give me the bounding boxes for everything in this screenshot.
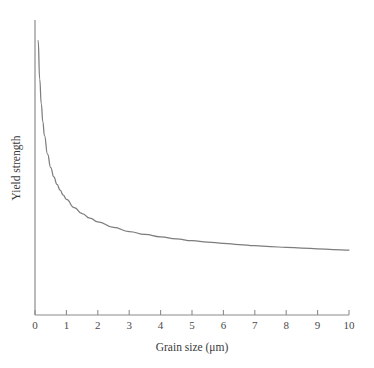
plot-axes	[35, 20, 349, 315]
x-axis-tick-labels: 012345678910	[32, 319, 355, 331]
x-axis-tick-label: 6	[221, 319, 227, 331]
x-axis-tick-label: 4	[158, 319, 164, 331]
x-axis-tick-label: 9	[315, 319, 321, 331]
y-axis-title: Yield strength	[10, 135, 23, 200]
x-axis-tick-label: 0	[32, 319, 38, 331]
x-axis-title: Grain size (μm)	[156, 341, 229, 354]
x-axis-tick-label: 10	[344, 319, 356, 331]
data-series-group	[38, 41, 349, 250]
yield-strength-vs-grain-size-chart: 012345678910 Grain size (μm) Yield stren…	[0, 0, 374, 368]
x-axis-tick-label: 2	[95, 319, 101, 331]
x-axis-tick-label: 7	[252, 319, 258, 331]
x-axis-tick-label: 3	[126, 319, 132, 331]
x-axis-tick-marks	[35, 310, 349, 315]
yield-strength-curve	[38, 41, 349, 250]
x-axis-tick-label: 8	[283, 319, 289, 331]
x-axis-tick-label: 5	[189, 319, 195, 331]
chart-figure: 012345678910 Grain size (μm) Yield stren…	[0, 0, 374, 368]
x-axis-tick-label: 1	[64, 319, 70, 331]
